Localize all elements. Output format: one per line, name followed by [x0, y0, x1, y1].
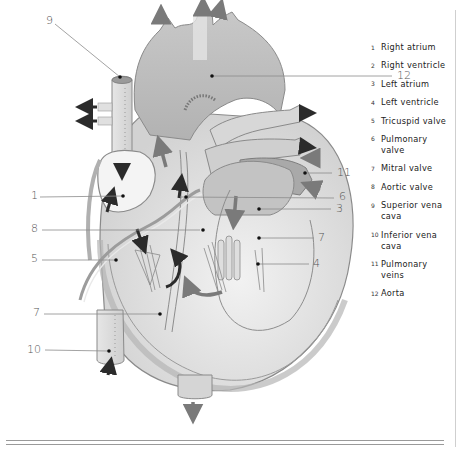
- legend-item: 8Aortic valve: [371, 182, 453, 193]
- callout-7a: 7: [318, 232, 325, 244]
- legend-num: 12: [371, 288, 381, 297]
- legend-num: 2: [371, 60, 381, 69]
- callout-9: 9: [46, 15, 53, 27]
- legend-label: Right atrium: [381, 42, 436, 53]
- legend-label: Pulmonary valve: [381, 134, 437, 156]
- callout-1: 1: [31, 190, 38, 202]
- legend-item: 7Mitral valve: [371, 163, 453, 174]
- page-edge-divider: [455, 10, 456, 447]
- callout-3: 3: [336, 203, 343, 215]
- legend-label: Left atrium: [381, 79, 429, 90]
- legend-item: 4Left ventricle: [371, 97, 453, 108]
- legend-label: Right ventricle: [381, 60, 445, 71]
- legend-item: 9Superior vena cava: [371, 200, 453, 222]
- legend-num: 11: [371, 259, 381, 268]
- legend-item: 11Pulmonary veins: [371, 259, 453, 281]
- bottom-rule-lower: [6, 444, 444, 445]
- callout-4: 4: [313, 258, 320, 270]
- legend-item: 10Inferior vena cava: [371, 230, 453, 252]
- callout-8: 8: [31, 223, 38, 235]
- legend-num: 1: [371, 42, 381, 51]
- legend-item: 6Pulmonary valve: [371, 134, 453, 156]
- legend-label: Left ventricle: [381, 97, 439, 108]
- legend-item: 3Left atrium: [371, 79, 453, 90]
- callout-5: 5: [31, 253, 38, 265]
- legend-item: 1Right atrium: [371, 42, 453, 53]
- legend-item: 12Aorta: [371, 288, 453, 299]
- legend-label: Mitral valve: [381, 163, 432, 174]
- left-atrium: [203, 161, 294, 215]
- inferior-vena-cava: [97, 310, 124, 365]
- legend-num: 4: [371, 97, 381, 106]
- legend-num: 6: [371, 134, 381, 143]
- legend-label: Superior vena cava: [381, 200, 447, 222]
- legend-num: 9: [371, 200, 381, 209]
- heart-diagram: 9 12 1 6 3 11 8 7 5 4 7 10 1Right atrium…: [0, 0, 464, 454]
- legend-label: Tricuspid valve: [381, 116, 446, 127]
- legend-num: 3: [371, 79, 381, 88]
- legend-num: 8: [371, 182, 381, 191]
- legend-label: Aortic valve: [381, 182, 433, 193]
- legend-item: 5Tricuspid valve: [371, 116, 453, 127]
- legend: 1Right atrium 2Right ventricle 3Left atr…: [371, 42, 453, 307]
- legend-num: 5: [371, 116, 381, 125]
- callout-7b: 7: [33, 307, 40, 319]
- legend-label: Aorta: [381, 288, 405, 299]
- legend-label: Pulmonary veins: [381, 259, 435, 281]
- legend-label: Inferior vena cava: [381, 230, 445, 252]
- legend-item: 2Right ventricle: [371, 60, 453, 71]
- bottom-rule-upper: [6, 440, 444, 441]
- legend-num: 10: [371, 230, 381, 239]
- callout-11: 11: [337, 167, 351, 179]
- descending-aorta: [178, 375, 212, 399]
- legend-num: 7: [371, 163, 381, 172]
- callout-10: 10: [27, 344, 41, 356]
